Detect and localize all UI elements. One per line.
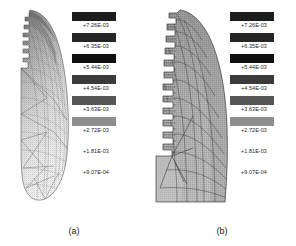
legend-label: +9.07E-04 xyxy=(228,168,280,177)
legend-label: +1.81E-03 xyxy=(70,147,122,156)
contour-legend-b: +7.26E-03 +6.35E-03 +5.44E-03 +4.54E-03 … xyxy=(228,12,284,180)
legend-row: +5.44E-03 xyxy=(70,54,126,75)
legend-row: +6.35E-03 xyxy=(228,33,284,54)
legend-label: +3.63E-03 xyxy=(70,105,122,114)
mesh-svg-a xyxy=(14,6,76,206)
figure-container: +7.26E-03 +6.35E-03 +5.44E-03 +4.54E-03 … xyxy=(0,0,296,246)
panel-caption-b: (b) xyxy=(148,226,296,236)
legend-swatch xyxy=(230,75,274,84)
legend-swatch xyxy=(230,12,274,21)
legend-row: +3.63E-03 xyxy=(228,96,284,117)
mesh-body-a xyxy=(14,6,76,206)
legend-label: +6.35E-03 xyxy=(70,42,122,51)
legend-row: +6.35E-03 xyxy=(70,33,126,54)
legend-swatch xyxy=(72,12,116,21)
legend-label: +5.44E-03 xyxy=(228,63,280,72)
legend-row: +5.44E-03 xyxy=(228,54,284,75)
panel-a: +7.26E-03 +6.35E-03 +5.44E-03 +4.54E-03 … xyxy=(0,0,148,246)
panel-caption-a: (a) xyxy=(0,226,148,236)
contour-legend-a: +7.26E-03 +6.35E-03 +5.44E-03 +4.54E-03 … xyxy=(70,12,126,180)
legend-label: +3.63E-03 xyxy=(228,105,280,114)
legend-label: +7.26E-03 xyxy=(70,21,122,30)
contour-plot-b xyxy=(150,6,232,206)
legend-label: +2.72E-03 xyxy=(70,126,122,135)
legend-row: +4.54E-03 xyxy=(228,75,284,96)
legend-row: +7.26E-03 xyxy=(70,12,126,33)
legend-swatch xyxy=(72,96,116,105)
legend-row: +1.81E-03 xyxy=(228,138,284,159)
legend-swatch xyxy=(72,75,116,84)
legend-row: +2.72E-03 xyxy=(228,117,284,138)
legend-row: +7.26E-03 xyxy=(228,12,284,33)
legend-label: +9.07E-04 xyxy=(70,168,122,177)
mesh-svg-b xyxy=(150,6,232,206)
legend-swatch xyxy=(230,138,274,147)
legend-swatch xyxy=(72,117,116,126)
legend-swatch xyxy=(230,33,274,42)
legend-row: +2.72E-03 xyxy=(70,117,126,138)
legend-swatch xyxy=(72,33,116,42)
legend-label: +7.26E-03 xyxy=(228,21,280,30)
legend-label: +5.44E-03 xyxy=(70,63,122,72)
contour-plot-a xyxy=(14,6,76,206)
legend-swatch xyxy=(230,54,274,63)
legend-label: +4.54E-03 xyxy=(70,84,122,93)
legend-label: +4.54E-03 xyxy=(228,84,280,93)
legend-row: +9.07E-04 xyxy=(70,159,126,180)
panel-b: +7.26E-03 +6.35E-03 +5.44E-03 +4.54E-03 … xyxy=(148,0,296,246)
mesh-body-b xyxy=(150,6,232,206)
legend-swatch xyxy=(72,54,116,63)
legend-swatch xyxy=(230,96,274,105)
legend-label: +1.81E-03 xyxy=(228,147,280,156)
legend-swatch xyxy=(72,159,116,168)
legend-row: +4.54E-03 xyxy=(70,75,126,96)
legend-swatch xyxy=(230,159,274,168)
legend-row: +1.81E-03 xyxy=(70,138,126,159)
legend-swatch xyxy=(72,138,116,147)
legend-label: +6.35E-03 xyxy=(228,42,280,51)
legend-swatch xyxy=(230,117,274,126)
legend-row: +3.63E-03 xyxy=(70,96,126,117)
legend-label: +2.72E-03 xyxy=(228,126,280,135)
legend-row: +9.07E-04 xyxy=(228,159,284,180)
